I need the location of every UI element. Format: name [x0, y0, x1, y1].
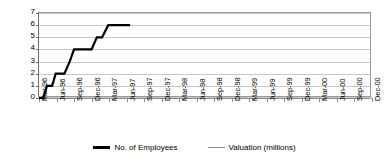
x-axis-tick-label: Mar-96: [41, 78, 49, 101]
legend-label-employees: No. of Employees: [114, 143, 177, 152]
x-axis-tick-label: Mar-00: [321, 78, 329, 101]
legend-item-employees: No. of Employees: [93, 143, 177, 152]
x-axis-tick-label: Sep-97: [146, 77, 154, 101]
x-axis-tick-label: Sep-00: [356, 77, 364, 101]
y-axis-tick-label: 3: [23, 57, 35, 65]
y-axis-tick-label: 0: [23, 93, 35, 101]
y-tick-mark: [36, 13, 39, 14]
x-axis-tick-label: Jun-97: [129, 79, 137, 101]
x-axis-tick-label: Dec-00: [374, 77, 382, 101]
x-axis-tick-label: Mar-97: [111, 78, 119, 101]
y-axis-tick-label: 4: [23, 44, 35, 52]
gridline: [39, 74, 370, 75]
y-tick-mark: [36, 49, 39, 50]
y-tick-mark: [36, 86, 39, 87]
gridline: [39, 37, 370, 38]
gridline: [39, 62, 370, 63]
gridline: [39, 13, 370, 14]
x-axis-tick-label: Jun-96: [59, 79, 67, 101]
gridline: [39, 25, 370, 26]
x-axis-tick-label: Jun-00: [339, 79, 347, 101]
legend-item-valuation: Valuation (millions): [208, 143, 296, 152]
x-axis-tick-label: Mar-98: [181, 78, 189, 101]
y-tick-mark: [36, 25, 39, 26]
x-axis-tick-label: Jun-98: [199, 79, 207, 101]
y-axis-tick-label: 5: [23, 32, 35, 40]
x-axis-tick-label: Dec-97: [164, 77, 172, 101]
x-axis-tick-label: Mar-99: [251, 78, 259, 101]
x-axis-tick-label: Dec-96: [94, 77, 102, 101]
legend-line-swatch-icon: [208, 147, 225, 148]
y-tick-mark: [36, 74, 39, 75]
x-axis-tick-label: Dec-99: [304, 77, 312, 101]
x-axis-tick-label: Jun-99: [269, 79, 277, 101]
x-axis-tick-label: Dec-98: [234, 77, 242, 101]
y-axis-tick-label: 2: [23, 69, 35, 77]
x-axis-tick-label: Sep-98: [216, 77, 224, 101]
chart-legend: No. of Employees Valuation (millions): [0, 143, 389, 152]
y-tick-mark: [36, 62, 39, 63]
x-axis-tick-label: Sep-99: [286, 77, 294, 101]
gridline: [39, 49, 370, 50]
y-axis-tick-label: 7: [23, 8, 35, 16]
legend-label-valuation: Valuation (millions): [229, 143, 296, 152]
x-axis-tick-label: Sep-96: [76, 77, 84, 101]
y-axis-tick-label: 6: [23, 20, 35, 28]
y-tick-mark: [36, 37, 39, 38]
y-axis-tick-label: 1: [23, 81, 35, 89]
chart-container: 01234567 Mar-96Jun-96Sep-96Dec-96Mar-97J…: [0, 0, 389, 162]
legend-line-swatch-icon: [93, 146, 110, 149]
